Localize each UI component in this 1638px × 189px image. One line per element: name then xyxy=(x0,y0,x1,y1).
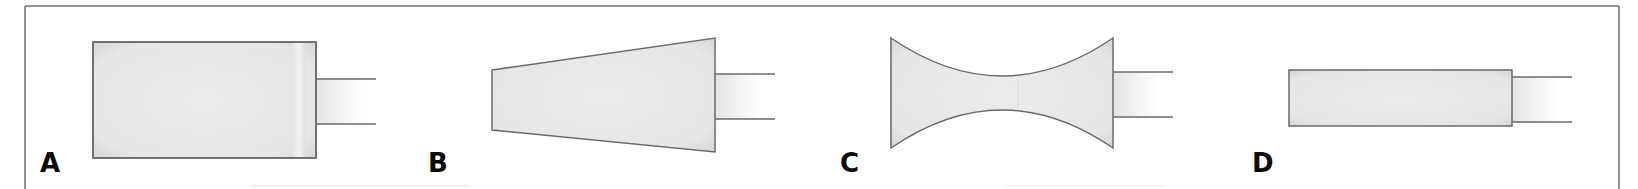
shank-a xyxy=(316,79,376,124)
shank-d xyxy=(1512,77,1572,122)
panel-label-a: A xyxy=(40,150,60,176)
diagram-canvas xyxy=(0,0,1638,189)
shape-d-narrow-cylinder xyxy=(1289,70,1572,126)
shape-c-hourglass xyxy=(891,38,1173,148)
panel-label-b: B xyxy=(428,150,448,176)
shank-c xyxy=(1113,72,1173,117)
panel-label-d: D xyxy=(1252,150,1274,176)
shape-a-cylinder xyxy=(93,42,376,158)
figure: A B C D xyxy=(0,0,1638,189)
panel-label-c: C xyxy=(840,150,859,176)
shape-b-inverted-cone xyxy=(492,38,775,152)
shank-b xyxy=(715,74,775,119)
